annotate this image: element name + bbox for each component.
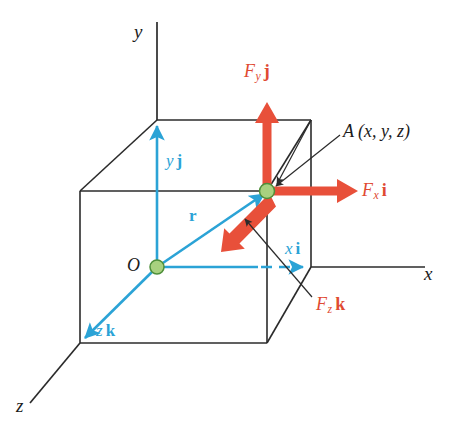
x-axis-label: x xyxy=(424,264,432,283)
component-y-label: yj xyxy=(166,152,182,169)
leader-line-force-z xyxy=(245,219,312,297)
force-y-unit-vector: j xyxy=(264,61,270,81)
force-y-label: Fyj xyxy=(244,62,270,83)
force-y-arrow xyxy=(255,102,279,188)
component-z-label: zk xyxy=(96,322,115,339)
z-axis-line xyxy=(30,343,80,403)
component-x-scalar: x xyxy=(285,239,293,258)
force-x-label: Fxi xyxy=(362,181,387,202)
force-x-arrow xyxy=(270,179,358,203)
box-edge-bottom-right-diag xyxy=(267,267,311,343)
vector-diagram-figure: y x z O A(x, y, z) Fyj Fxi Fzk yj r xi z… xyxy=(0,0,452,425)
component-y-scalar: y xyxy=(166,151,174,170)
position-vector-r-label: r xyxy=(189,207,197,224)
force-y-symbol: F xyxy=(244,61,255,81)
component-z-unit-vector: k xyxy=(106,321,115,340)
origin-label: O xyxy=(127,256,140,274)
point-a-marker xyxy=(260,184,275,199)
y-axis-label: y xyxy=(134,22,142,41)
origin-point-marker xyxy=(150,260,164,274)
component-x-unit-vector: i xyxy=(296,239,301,258)
force-z-label: Fzk xyxy=(316,295,345,316)
force-z-symbol: F xyxy=(316,294,327,314)
box-edge-top-left-diag xyxy=(80,120,157,191)
force-x-symbol: F xyxy=(362,180,373,200)
point-a-letter: A xyxy=(343,121,354,141)
force-z-unit-vector: k xyxy=(335,294,345,314)
axis-lines xyxy=(30,22,425,403)
component-z-scalar: z xyxy=(96,321,103,340)
force-z-subscript: z xyxy=(328,302,333,316)
z-axis-label: z xyxy=(16,396,23,415)
point-a-label: A(x, y, z) xyxy=(343,122,410,140)
point-a-coordinates: (x, y, z) xyxy=(358,121,410,141)
force-x-unit-vector: i xyxy=(382,180,387,200)
force-y-subscript: y xyxy=(256,69,261,83)
box-edge-top-right-diag xyxy=(267,120,311,191)
component-x-label: xi xyxy=(285,240,300,257)
force-x-subscript: x xyxy=(374,188,379,202)
force-vectors-group xyxy=(221,102,358,252)
leader-line-point-a-secondary xyxy=(277,120,311,184)
component-y-unit-vector: j xyxy=(177,151,183,170)
diagram-canvas xyxy=(0,0,452,425)
